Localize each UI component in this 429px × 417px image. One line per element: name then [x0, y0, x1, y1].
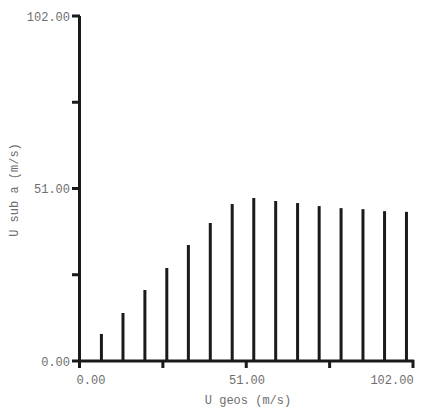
x-tick-label-max: 102.00: [370, 374, 413, 388]
x-tick-label-mid: 51.00: [229, 374, 265, 388]
y-tick-label-max: 102.00: [27, 11, 70, 25]
x-axis-title: U geos (m/s): [205, 394, 291, 408]
x-tick-label-zero: 0.00: [77, 374, 106, 388]
chart: 102.00 51.00 0.00 0.00 51.00 102.00 U ge…: [0, 0, 429, 417]
y-axis-title: U sub a (m/s): [8, 143, 22, 237]
y-tick-label-zero: 0.00: [41, 356, 70, 370]
y-tick-label-mid: 51.00: [34, 183, 70, 197]
bar-series: [101, 198, 406, 361]
